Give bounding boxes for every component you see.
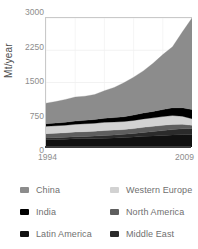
legend-item-label: Western Europe xyxy=(126,185,192,195)
y-axis-tick-label: 1500 xyxy=(18,76,44,86)
legend-swatch-icon xyxy=(110,231,119,237)
stacked-area-chart: Mt/year 3000 2250 1500 750 0 1994 2009 xyxy=(0,0,198,175)
legend-item-label: North America xyxy=(126,207,184,217)
legend-item-label: China xyxy=(36,185,60,195)
plot-area xyxy=(45,17,192,147)
area-band-china xyxy=(46,18,192,124)
legend-swatch-icon xyxy=(20,231,29,237)
area-series-svg xyxy=(46,18,192,147)
x-axis-tick-label-start: 1994 xyxy=(38,152,57,162)
legend-item-label: Middle East xyxy=(126,229,174,239)
legend-swatch-icon xyxy=(20,209,29,215)
legend-item-label: India xyxy=(36,207,56,217)
legend-item-north-america[interactable]: North America xyxy=(110,202,198,221)
y-axis-ticks: 3000 2250 1500 750 0 xyxy=(18,12,44,150)
y-axis-tick-label: 3000 xyxy=(18,7,44,17)
legend-item-latin-america[interactable]: Latin America xyxy=(20,224,112,243)
legend-item-western-europe[interactable]: Western Europe xyxy=(110,180,198,199)
legend-item-india[interactable]: India xyxy=(20,202,112,221)
y-axis-tick-label: 750 xyxy=(18,111,44,121)
legend-item-middle-east[interactable]: Middle East xyxy=(110,224,198,243)
legend-swatch-icon xyxy=(20,187,29,193)
legend-row: Latin America Middle East xyxy=(18,224,198,243)
legend-row: India North America xyxy=(18,202,198,221)
legend-item-china[interactable]: China xyxy=(20,180,112,199)
x-axis-tick-label-end: 2009 xyxy=(175,152,194,162)
chart-legend: China Western Europe India North America… xyxy=(18,180,198,244)
x-axis-line xyxy=(45,146,191,148)
legend-swatch-icon xyxy=(110,209,119,215)
y-axis-label: Mt/year xyxy=(3,31,14,91)
chart-page: Mt/year 3000 2250 1500 750 0 1994 2009 C… xyxy=(0,0,198,249)
legend-row: China Western Europe xyxy=(18,180,198,199)
legend-item-label: Latin America xyxy=(36,229,92,239)
y-axis-tick-label: 2250 xyxy=(18,42,44,52)
legend-swatch-icon xyxy=(110,187,119,193)
x-axis-ticks: 1994 2009 xyxy=(38,152,198,166)
